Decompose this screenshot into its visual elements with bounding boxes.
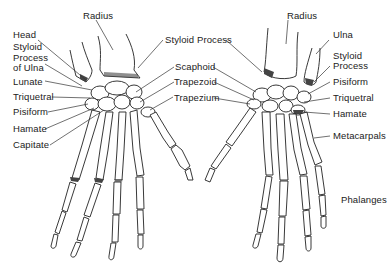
label-styloid-ulna-line1: Styloid bbox=[13, 42, 42, 52]
label-styloid-right-line2: Process bbox=[333, 61, 368, 71]
label-styloid-ulna-line3: of Ulna bbox=[13, 63, 44, 73]
left-hand-skeleton bbox=[51, 34, 193, 260]
label-scaphoid: Scaphoid bbox=[175, 62, 215, 72]
label-styloid-process-center: Styloid Process bbox=[165, 35, 232, 45]
label-trapezium: Trapezium bbox=[174, 93, 219, 103]
label-hamate-right: Hamate bbox=[333, 109, 367, 119]
label-pisiform-right: Pisiform bbox=[333, 77, 368, 87]
label-phalanges: Phalanges bbox=[341, 195, 387, 205]
label-trapezoid: Trapezoid bbox=[174, 77, 217, 87]
label-head: Head bbox=[13, 30, 36, 40]
label-pisiform-left: Pisiform bbox=[13, 107, 48, 117]
label-capitate: Capitate bbox=[13, 140, 49, 150]
label-triquetral-left: Triquetral bbox=[13, 92, 54, 102]
right-hand-skeleton bbox=[205, 28, 326, 262]
label-triquetral-right: Triquetral bbox=[333, 93, 374, 103]
label-radius-left: Radius bbox=[83, 11, 113, 21]
label-hamate-left: Hamate bbox=[13, 124, 47, 134]
label-lunate: Lunate bbox=[13, 77, 43, 87]
hand-bones-diagram: Radius Head Styloid Process of Ulna Luna… bbox=[0, 0, 389, 275]
label-radius-right: Radius bbox=[287, 11, 317, 21]
label-ulna: Ulna bbox=[333, 30, 353, 40]
label-metacarpals: Metacarpals bbox=[333, 131, 386, 141]
